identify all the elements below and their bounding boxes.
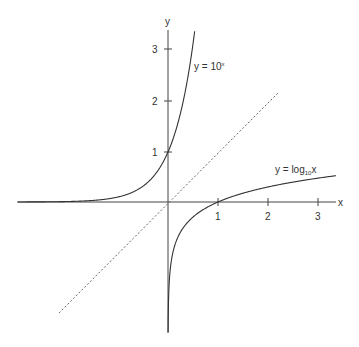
y-axis-label: y — [165, 16, 170, 27]
y-tick-label-3: 3 — [152, 44, 158, 55]
exp-label: y = 10x — [194, 61, 225, 72]
log-label: y = log10x — [275, 164, 316, 176]
exp-label-main: y = 10 — [194, 61, 222, 72]
x-tick-label-2: 2 — [265, 211, 271, 222]
y-tick-label-2: 2 — [152, 96, 158, 107]
x-tick-label-3: 3 — [315, 211, 321, 222]
log-curve — [168, 176, 336, 332]
x-axis-label: x — [338, 197, 343, 208]
function-graph: x y 1 2 3 1 2 3 y = 10x y = log10x — [0, 0, 359, 347]
y-tick-label-1: 1 — [152, 147, 158, 158]
log-label-var: x — [311, 164, 316, 175]
log-label-main: y = log — [275, 164, 305, 175]
exp-label-sup: x — [222, 61, 225, 67]
x-tick-label-1: 1 — [215, 211, 221, 222]
